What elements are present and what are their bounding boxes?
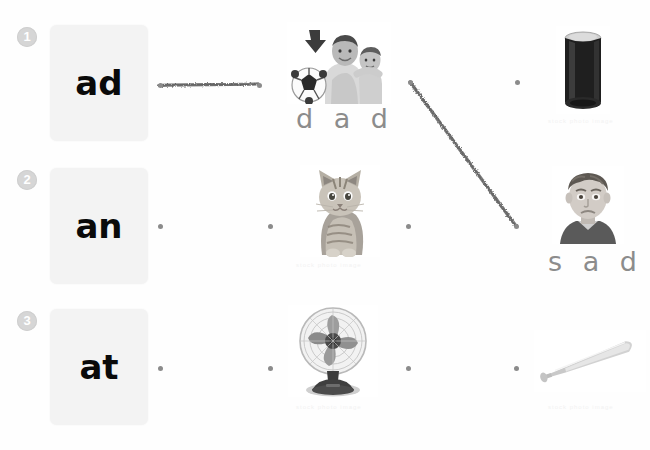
row-number-badge-2: 2 [17, 170, 37, 190]
word-card-row3[interactable]: at [50, 309, 148, 425]
connector-dot-row1-picture-left[interactable] [257, 83, 262, 88]
row-number-badge-1: 1 [17, 27, 37, 47]
watermark-caption-4: stock photo image [548, 404, 614, 410]
connector-dot-row2-far-right[interactable] [514, 224, 519, 229]
connector-dot-row3-picture-left[interactable] [268, 366, 273, 371]
connector-dot-row3-card[interactable] [158, 366, 163, 371]
drawn-line-row1-horizontal [159, 84, 259, 86]
row-number-badge-3: 3 [17, 311, 37, 331]
word-card-row2[interactable]: an [50, 168, 148, 284]
picture-sad-boy-face[interactable] [552, 166, 624, 244]
picture-dad-and-child[interactable] [287, 22, 391, 104]
drawn-line-diagonal-row1-to-row2 [410, 82, 516, 226]
traced-word-sad: s a d [548, 246, 643, 277]
watermark-caption-2: stock photo image [296, 262, 362, 268]
connector-dot-row3-far-right[interactable] [514, 366, 519, 371]
word-card-text-row2: an [75, 206, 122, 246]
connector-dot-row3-picture-right[interactable] [406, 366, 411, 371]
connector-dot-row2-picture-right[interactable] [406, 224, 411, 229]
traced-word-dad: d a d [296, 103, 394, 134]
picture-baseball-bat[interactable] [534, 330, 646, 392]
watermark-caption-3: stock photo image [296, 404, 362, 410]
connector-dot-row1-far-right[interactable] [515, 80, 520, 85]
connector-dot-row2-picture-left[interactable] [268, 224, 273, 229]
word-card-row1[interactable]: ad [50, 25, 148, 141]
picture-electric-fan[interactable] [288, 305, 378, 397]
connector-dot-row1-picture-right[interactable] [408, 80, 413, 85]
watermark-caption-1: stock photo image [548, 118, 614, 124]
worksheet-page: 1 ad [0, 0, 650, 450]
picture-kitten-cat[interactable] [300, 165, 380, 257]
word-card-text-row3: at [79, 347, 118, 387]
connector-dot-row2-card[interactable] [158, 224, 163, 229]
connector-dot-row1-card[interactable] [158, 83, 163, 88]
picture-soda-can[interactable] [556, 26, 610, 114]
word-card-text-row1: ad [75, 63, 122, 103]
